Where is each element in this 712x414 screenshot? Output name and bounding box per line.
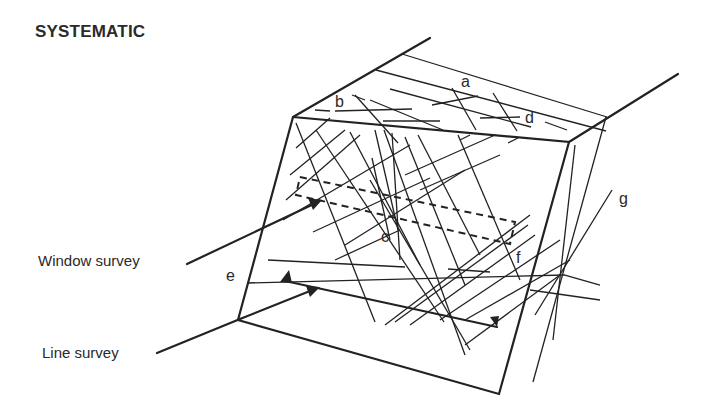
letter-e: e [226, 268, 235, 284]
letter-f: f [516, 250, 520, 266]
window-survey-label: Window survey [38, 252, 140, 269]
letter-b: b [335, 94, 344, 110]
letter-a: a [461, 74, 470, 90]
line-survey-line [280, 270, 499, 327]
leader-lines [157, 198, 322, 353]
window-survey-area [296, 177, 515, 244]
front-face-traces [247, 118, 612, 355]
arrow-head-icon [306, 286, 320, 297]
letter-c: c [381, 229, 389, 245]
letter-d: d [525, 110, 534, 126]
line-survey-label: Line survey [42, 344, 119, 361]
letter-g: g [619, 191, 628, 207]
triangle-marker-icon [280, 270, 292, 283]
side-face-traces [533, 117, 606, 382]
